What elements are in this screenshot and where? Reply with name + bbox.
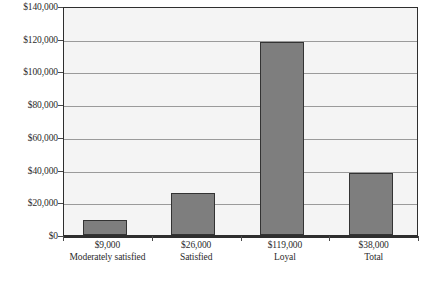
y-tick-label: $120,000 [0,35,58,45]
x-category-total: $38,000 Total [329,240,418,263]
y-tick-mark [58,7,63,8]
x-tick-mark [418,236,419,241]
x-category-value: $119,000 [241,240,330,252]
x-category-name: Satisfied [152,252,241,264]
y-tick-mark [58,203,63,204]
bars-layer [64,8,417,235]
y-tick-mark [58,105,63,106]
y-tick-label: $40,000 [0,166,58,176]
x-category-satisfied: $26,000 Satisfied [152,240,241,263]
y-tick-mark [58,40,63,41]
bar-satisfied[interactable] [171,193,215,235]
y-tick-mark [58,138,63,139]
x-category-value: $9,000 [63,240,152,252]
x-category-name: Total [329,252,418,264]
x-category-value: $26,000 [152,240,241,252]
x-category-moderately-satisfied: $9,000 Moderately satisfied [63,240,152,263]
bar-moderately-satisfied[interactable] [83,220,127,235]
y-tick-mark [58,72,63,73]
x-category-value: $38,000 [329,240,418,252]
plot-area [63,7,418,236]
bar-chart: $140,000 $120,000 $100,000 $80,000 $60,0… [0,0,423,286]
y-tick-label: $0 [0,231,58,241]
x-category-name: Loyal [241,252,330,264]
y-tick-label: $80,000 [0,100,58,110]
y-axis: $140,000 $120,000 $100,000 $80,000 $60,0… [0,0,58,286]
bar-loyal[interactable] [260,42,304,235]
bar-total[interactable] [349,173,393,235]
y-tick-label: $60,000 [0,133,58,143]
y-tick-label: $140,000 [0,2,58,12]
x-category-name: Moderately satisfied [63,252,152,264]
y-tick-label: $100,000 [0,67,58,77]
y-tick-label: $20,000 [0,198,58,208]
x-category-loyal: $119,000 Loyal [241,240,330,263]
y-tick-mark [58,171,63,172]
